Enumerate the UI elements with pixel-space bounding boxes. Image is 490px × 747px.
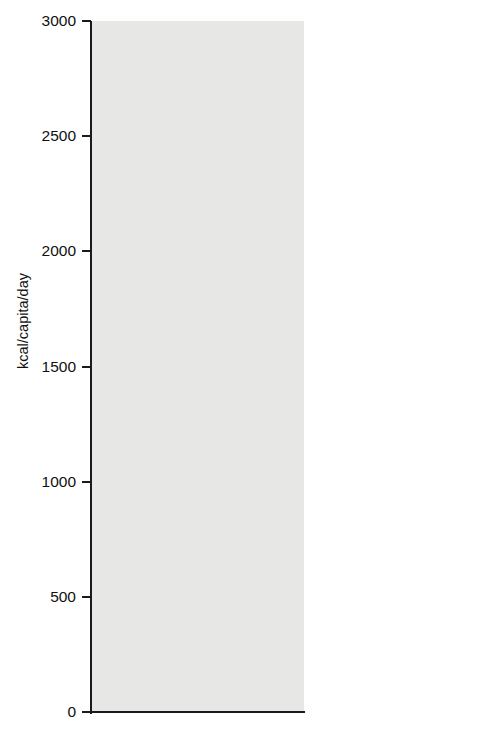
y-tick-mark	[82, 481, 91, 483]
stacked-bar-chart: 050010001500200025003000 kcal/capita/day	[0, 0, 490, 747]
y-tick-label: 3000	[28, 13, 76, 29]
y-tick-mark	[82, 20, 91, 22]
y-tick-label: 2500	[28, 128, 76, 144]
y-tick-label: 0	[28, 704, 76, 720]
y-tick-mark	[82, 711, 91, 713]
y-tick-label: 500	[28, 589, 76, 605]
y-tick-label: 1000	[28, 474, 76, 490]
y-tick-mark	[82, 366, 91, 368]
x-axis-line	[90, 711, 305, 713]
y-axis-ticks: 050010001500200025003000	[0, 0, 92, 747]
bars-container	[92, 21, 304, 712]
y-tick-mark	[82, 135, 91, 137]
y-axis-title: kcal/capita/day	[15, 206, 31, 436]
plot-area	[92, 21, 304, 712]
y-tick-label: 1500	[28, 359, 76, 375]
y-tick-mark	[82, 250, 91, 252]
y-tick-label: 2000	[28, 243, 76, 259]
y-tick-mark	[82, 596, 91, 598]
